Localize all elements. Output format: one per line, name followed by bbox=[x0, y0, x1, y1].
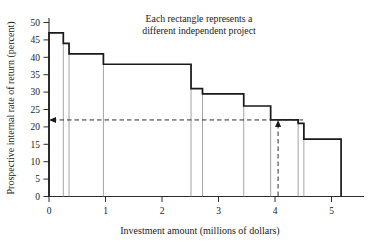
y-axis-label: Prospective internal rate of return (per… bbox=[5, 22, 17, 195]
y-tick-label: 5 bbox=[35, 174, 40, 184]
annotation-line-1: Each rectangle represents a bbox=[146, 13, 254, 24]
investment-demand-curve bbox=[49, 33, 341, 197]
y-tick-label: 40 bbox=[31, 53, 41, 63]
left-arrowhead bbox=[49, 117, 56, 123]
x-tick-label: 5 bbox=[329, 206, 334, 216]
x-axis-ticks bbox=[49, 197, 332, 203]
y-tick-label: 25 bbox=[31, 105, 41, 115]
x-axis-label: Investment amount (millions of dollars) bbox=[120, 225, 279, 237]
x-axis-tick-labels: 0 1 2 3 4 5 bbox=[47, 206, 335, 216]
y-tick-label: 30 bbox=[31, 87, 41, 97]
y-axis-tick-labels: 0 5 10 15 20 25 30 35 40 45 50 bbox=[31, 18, 41, 202]
x-tick-label: 0 bbox=[47, 206, 52, 216]
y-tick-label: 0 bbox=[35, 192, 40, 202]
y-tick-label: 35 bbox=[31, 70, 41, 80]
x-tick-label: 4 bbox=[273, 206, 278, 216]
y-tick-label: 10 bbox=[31, 157, 41, 167]
x-tick-label: 2 bbox=[160, 206, 165, 216]
reference-rate-line bbox=[49, 117, 303, 123]
reference-investment-line bbox=[275, 120, 281, 196]
y-tick-label: 15 bbox=[31, 140, 41, 150]
annotation-line-2: different independent project bbox=[142, 25, 256, 36]
y-tick-label: 20 bbox=[31, 122, 41, 132]
x-tick-label: 3 bbox=[216, 206, 221, 216]
x-tick-label: 1 bbox=[103, 206, 108, 216]
annotation-text: Each rectangle represents a different in… bbox=[142, 13, 256, 36]
irr-step-chart: 0 5 10 15 20 25 30 35 40 45 50 0 1 2 3 bbox=[0, 0, 376, 242]
chart-container: 0 5 10 15 20 25 30 35 40 45 50 0 1 2 3 bbox=[0, 0, 376, 242]
y-tick-label: 50 bbox=[31, 18, 41, 28]
y-tick-label: 45 bbox=[31, 35, 41, 45]
project-dividers bbox=[63, 33, 304, 197]
up-arrowhead bbox=[275, 120, 281, 127]
